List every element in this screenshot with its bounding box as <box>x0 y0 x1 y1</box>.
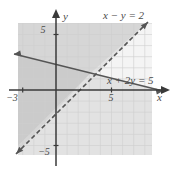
y-axis-label: y <box>62 10 68 22</box>
y-tick-label-5: 5 <box>41 24 46 35</box>
coordinate-plane: y x 5 −5 −3 5 x − y = 2 x + 2y = 5 <box>0 0 179 170</box>
x-tick-label-5: 5 <box>109 92 114 103</box>
graph-figure: y x 5 −5 −3 5 x − y = 2 x + 2y = 5 <box>0 0 179 170</box>
x-axis-label: x <box>156 91 162 103</box>
solid-line-label: x + 2y = 5 <box>106 74 154 86</box>
x-axis-arrow <box>161 86 170 94</box>
dashed-line-label: x − y = 2 <box>102 9 145 21</box>
y-axis-arrow <box>52 9 60 18</box>
y-tick-label-neg5: −5 <box>38 146 50 157</box>
x-tick-label-neg3: −3 <box>6 92 18 103</box>
